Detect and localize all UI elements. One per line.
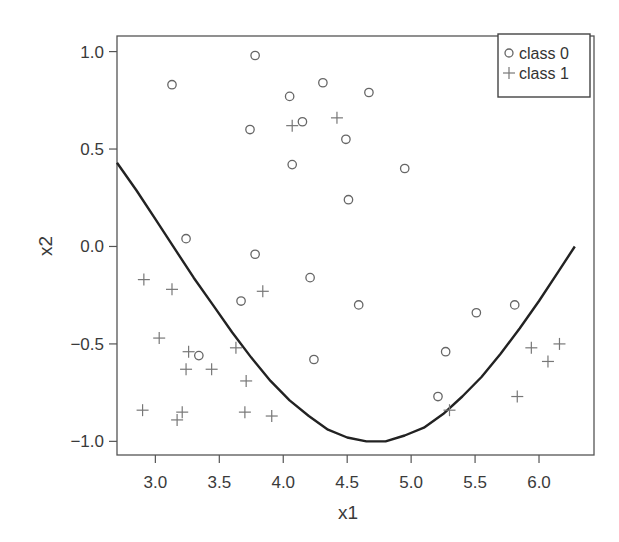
points-layer: [137, 51, 566, 426]
decision-boundary-curve: [117, 163, 575, 442]
class0-point: [182, 234, 190, 242]
class0-point: [251, 51, 259, 59]
class0-point: [365, 88, 373, 96]
class1-point: [138, 274, 150, 286]
class1-point: [180, 363, 192, 375]
y-axis: 1.00.50.0−0.5−1.0: [70, 43, 117, 452]
x-tick-label: 3.5: [207, 473, 231, 492]
class1-point: [166, 283, 178, 295]
y-tick-label: −0.5: [70, 335, 104, 354]
class0-point: [319, 79, 327, 87]
x-tick-label: 4.5: [335, 473, 359, 492]
x-tick-label: 4.0: [271, 473, 295, 492]
class1-point: [240, 375, 252, 387]
class0-point: [288, 160, 296, 168]
plot-frame: [117, 36, 594, 455]
class0-point: [344, 196, 352, 204]
class1-point: [286, 120, 298, 132]
class1-point: [153, 332, 165, 344]
class0-point: [237, 297, 245, 305]
class1-point: [183, 346, 195, 358]
class0-point: [472, 309, 480, 317]
class1-point: [239, 406, 251, 418]
class1-point: [511, 391, 523, 403]
class0-point: [285, 92, 293, 100]
x-tick-label: 3.0: [144, 473, 168, 492]
decision-boundary-layer: [117, 163, 575, 442]
legend-class0-label: class 0: [519, 45, 569, 62]
class0-point: [434, 392, 442, 400]
class0-point: [401, 164, 409, 172]
class0-point: [342, 135, 350, 143]
class0-point: [354, 301, 362, 309]
class1-point: [525, 342, 537, 354]
plot-border: [117, 36, 594, 455]
legend: class 0 class 1: [498, 34, 590, 97]
y-tick-label: 0.5: [80, 140, 104, 159]
class0-point: [298, 118, 306, 126]
class0-point: [246, 125, 254, 133]
x-tick-label: 5.5: [463, 473, 487, 492]
class0-point: [168, 81, 176, 89]
class0-point: [251, 250, 259, 258]
class0-point: [306, 273, 314, 281]
x-axis-title: x1: [338, 502, 358, 523]
class1-point: [553, 338, 565, 350]
class1-point: [206, 363, 218, 375]
class1-point: [176, 406, 188, 418]
y-tick-label: 0.0: [80, 237, 104, 256]
x-tick-label: 5.0: [399, 473, 423, 492]
legend-class1-label: class 1: [519, 65, 569, 82]
class1-point: [171, 414, 183, 426]
class0-point: [441, 348, 449, 356]
class0-point: [310, 355, 318, 363]
class0-point: [511, 301, 519, 309]
y-tick-label: 1.0: [80, 43, 104, 62]
class1-point: [257, 285, 269, 297]
class1-point: [542, 355, 554, 367]
class1-point: [331, 112, 343, 124]
scatter-chart: 3.03.54.04.55.05.56.0 1.00.50.0−0.5−1.0 …: [0, 0, 619, 542]
y-tick-label: −1.0: [70, 432, 104, 451]
x-tick-label: 6.0: [527, 473, 551, 492]
class1-point: [266, 410, 278, 422]
x-axis: 3.03.54.04.55.05.56.0: [144, 455, 551, 492]
class0-point: [195, 351, 203, 359]
class1-point: [137, 404, 149, 416]
y-axis-title: x2: [35, 236, 56, 256]
